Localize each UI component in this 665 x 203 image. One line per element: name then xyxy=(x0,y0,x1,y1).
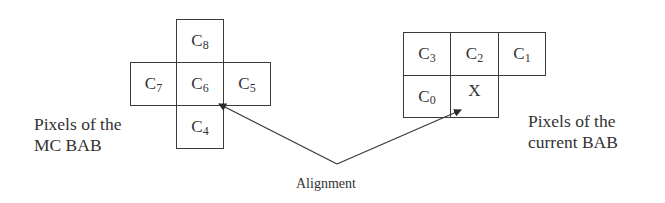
arrow-to-mc-c6 xyxy=(219,104,337,164)
alignment-label: Alignment xyxy=(296,176,356,192)
alignment-arrows xyxy=(0,0,665,203)
arrow-to-current-x xyxy=(337,110,461,164)
